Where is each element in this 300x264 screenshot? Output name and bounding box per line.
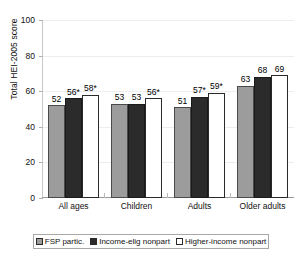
bar-group: 535356* xyxy=(105,20,168,198)
y-tick-label: 0 xyxy=(1,194,35,203)
x-category-label: Children xyxy=(105,201,168,217)
bar[interactable] xyxy=(237,86,254,198)
legend-label: Higher-income nonpart xyxy=(185,237,266,246)
bar-column: 59* xyxy=(208,20,225,198)
bar[interactable] xyxy=(191,97,208,198)
bar-value-label: 63 xyxy=(241,75,250,84)
bar-column: 53 xyxy=(128,20,145,198)
bar[interactable] xyxy=(174,107,191,198)
bar-groups: 5256*58*535356*5157*59*636869 xyxy=(42,20,294,198)
bar-group: 5157*59* xyxy=(168,20,231,198)
bar[interactable] xyxy=(65,98,82,198)
bar-column: 63 xyxy=(237,20,254,198)
bar-group-bars: 535356* xyxy=(105,20,168,198)
bar[interactable] xyxy=(145,98,162,198)
bar-group: 5256*58* xyxy=(42,20,105,198)
legend-swatch xyxy=(90,238,97,245)
bar-group: 636869 xyxy=(231,20,294,198)
bar[interactable] xyxy=(208,93,225,198)
bar-column: 56* xyxy=(65,20,82,198)
bar-value-label: 57* xyxy=(193,86,206,95)
x-category-label: All ages xyxy=(42,201,105,217)
y-axis-tick-labels: 020406080100 xyxy=(0,20,40,198)
bar[interactable] xyxy=(271,75,288,198)
bar-value-label: 59* xyxy=(210,82,223,91)
legend-swatch xyxy=(176,238,183,245)
y-tick-mark xyxy=(39,198,43,199)
bar-value-label: 58* xyxy=(84,84,97,93)
bar-value-label: 53 xyxy=(132,93,141,102)
bar-column: 69 xyxy=(271,20,288,198)
bar-value-label: 52 xyxy=(52,95,61,104)
bar[interactable] xyxy=(254,77,271,198)
legend-label: FSP partic. xyxy=(45,237,84,246)
bar-column: 52 xyxy=(48,20,65,198)
legend-item[interactable]: Higher-income nonpart xyxy=(176,237,266,246)
bar-value-label: 56* xyxy=(147,88,160,97)
x-axis-category-labels: All agesChildrenAdultsOlder adults xyxy=(42,201,294,217)
bar[interactable] xyxy=(111,104,128,198)
bar[interactable] xyxy=(128,104,145,198)
chart-legend: FSP partic.Income-elig nonpartHigher-inc… xyxy=(33,234,269,249)
bar-value-label: 56* xyxy=(67,88,80,97)
legend-swatch xyxy=(36,238,43,245)
bar-group-bars: 5256*58* xyxy=(42,20,105,198)
bar-column: 53 xyxy=(111,20,128,198)
bar-value-label: 68 xyxy=(258,66,267,75)
y-tick-label: 20 xyxy=(1,158,35,167)
bar-column: 58* xyxy=(82,20,99,198)
legend-label: Income-elig nonpart xyxy=(99,237,170,246)
bar-value-label: 69 xyxy=(275,65,284,74)
bar-chart: Total HEI-2005 score 020406080100 5256*5… xyxy=(0,0,300,264)
bar-value-label: 51 xyxy=(178,97,187,106)
y-tick-label: 80 xyxy=(1,51,35,60)
legend-item[interactable]: Income-elig nonpart xyxy=(90,237,170,246)
x-category-label: Older adults xyxy=(231,201,294,217)
bar-value-label: 53 xyxy=(115,93,124,102)
bar-column: 68 xyxy=(254,20,271,198)
bar-column: 57* xyxy=(191,20,208,198)
bar[interactable] xyxy=(48,105,65,198)
x-category-label: Adults xyxy=(168,201,231,217)
plot-area: 5256*58*535356*5157*59*636869 xyxy=(42,20,294,198)
bar-group-bars: 636869 xyxy=(231,20,294,198)
bar-column: 51 xyxy=(174,20,191,198)
bar[interactable] xyxy=(82,95,99,198)
bar-group-bars: 5157*59* xyxy=(168,20,231,198)
y-tick-label: 60 xyxy=(1,87,35,96)
y-tick-label: 40 xyxy=(1,123,35,132)
legend-item[interactable]: FSP partic. xyxy=(36,237,84,246)
bar-column: 56* xyxy=(145,20,162,198)
y-tick-label: 100 xyxy=(1,16,35,25)
